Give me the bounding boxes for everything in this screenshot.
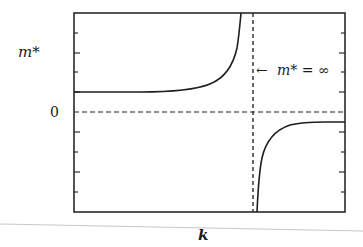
y-axis-label: m* [18, 43, 40, 61]
curve-left-branch [74, 13, 241, 92]
zero-tick-label: 0 [50, 104, 59, 120]
x-axis-label: k [198, 226, 208, 244]
curve-right-branch [257, 122, 345, 212]
asymptote-arrow-icon: ← [256, 62, 268, 78]
asymptote-annotation: m* = ∞ [277, 62, 330, 78]
effective-mass-chart: m* 0 ← m* = ∞ k [0, 0, 363, 247]
page-edge-line [0, 224, 363, 231]
